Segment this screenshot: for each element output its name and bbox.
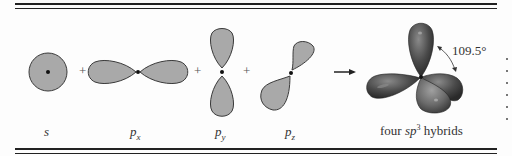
bond-angle-label: 109.5° <box>452 43 486 59</box>
bottom-rule-1 <box>15 148 497 150</box>
pz-orbital <box>261 42 314 111</box>
page-margin-marks <box>506 58 509 148</box>
reaction-arrow <box>334 69 356 75</box>
s-orbital <box>29 53 67 91</box>
px-orbital <box>88 60 188 83</box>
label-s: s <box>44 124 49 140</box>
plus-sign-2: + <box>194 63 201 78</box>
plus-sign-3: + <box>243 63 250 78</box>
label-sp3-hybrids: four sp3 hybrids <box>380 123 463 139</box>
label-py: py <box>215 124 226 142</box>
plus-sign-1: + <box>79 63 86 78</box>
label-px: px <box>130 124 141 142</box>
bottom-rule-2 <box>15 153 497 154</box>
sp3-hybrids <box>367 23 463 113</box>
label-pz: pz <box>285 124 295 142</box>
py-orbital <box>210 29 233 117</box>
